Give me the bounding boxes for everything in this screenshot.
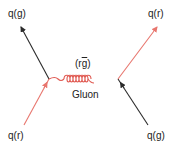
incoming-red-quark-line bbox=[24, 79, 49, 125]
incoming-green-quark-line bbox=[118, 79, 148, 125]
gluon-color-suffix: ) bbox=[87, 58, 90, 69]
gluon-color-prefix: (r bbox=[75, 58, 82, 69]
feynman-diagram: q(g) q(r) q(r) q(g) (rg) Gluon bbox=[0, 0, 177, 155]
gluon-propagator bbox=[49, 75, 118, 83]
label-top-right-quark: q(r) bbox=[148, 8, 164, 19]
arrow-icon bbox=[121, 83, 125, 89]
arrow-icon bbox=[44, 83, 47, 89]
label-top-left-quark: q(g) bbox=[8, 8, 26, 19]
gluon-name-label: Gluon bbox=[72, 89, 99, 100]
outgoing-green-quark-line bbox=[21, 27, 49, 79]
label-bottom-right-quark: q(g) bbox=[147, 130, 165, 141]
outgoing-red-quark-line bbox=[118, 27, 157, 79]
gluon-color-charge-label: (rg) bbox=[75, 58, 91, 69]
label-bottom-left-quark: q(r) bbox=[8, 130, 24, 141]
